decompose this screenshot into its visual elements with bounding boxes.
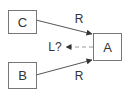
node-c: C	[9, 11, 37, 34]
diagram-canvas: C A B R R L?	[0, 0, 131, 95]
edge-b-a-label: R	[75, 69, 84, 83]
node-a: A	[94, 34, 122, 61]
node-a-label: A	[103, 40, 112, 55]
edge-b-to-a	[36, 60, 92, 75]
node-b: B	[9, 63, 37, 89]
edge-c-a-label: R	[75, 12, 84, 26]
node-c-label: C	[18, 15, 27, 30]
node-b-label: B	[18, 68, 27, 83]
edge-c-to-a	[36, 20, 92, 34]
edge-a-dashed-label: L?	[48, 40, 62, 54]
